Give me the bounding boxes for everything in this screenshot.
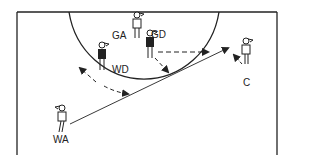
movement-gd-down bbox=[155, 58, 168, 72]
movement-wd-upleft bbox=[80, 68, 96, 82]
label-gd: GD bbox=[151, 30, 166, 40]
player-ga bbox=[133, 12, 144, 38]
player-c bbox=[242, 38, 253, 64]
label-wa: WA bbox=[53, 135, 69, 145]
shooting-circle bbox=[69, 12, 219, 79]
player-wd bbox=[98, 42, 109, 70]
label-ga: GA bbox=[112, 31, 126, 41]
movement-wd-downright bbox=[104, 86, 128, 94]
label-wd: WD bbox=[112, 65, 129, 75]
label-c: C bbox=[243, 78, 250, 88]
movement-c bbox=[234, 55, 242, 64]
player-wa bbox=[55, 105, 66, 132]
